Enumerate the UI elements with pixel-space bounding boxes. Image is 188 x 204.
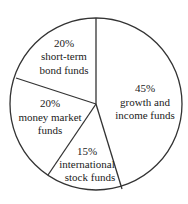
- svg-text:international: international: [59, 158, 115, 170]
- svg-text:funds: funds: [38, 124, 62, 136]
- svg-text:money market: money market: [18, 111, 81, 123]
- pie-chart: 45% growth and income funds 15% internat…: [0, 0, 188, 204]
- svg-text:15%: 15%: [77, 145, 97, 157]
- svg-text:short-term: short-term: [41, 50, 87, 62]
- svg-text:45%: 45%: [135, 82, 155, 94]
- svg-text:20%: 20%: [40, 97, 60, 109]
- svg-text:growth and: growth and: [120, 96, 170, 108]
- svg-text:stock funds: stock funds: [65, 171, 115, 183]
- svg-text:bond funds: bond funds: [39, 64, 88, 76]
- svg-text:income funds: income funds: [115, 109, 175, 121]
- svg-text:20%: 20%: [54, 37, 74, 49]
